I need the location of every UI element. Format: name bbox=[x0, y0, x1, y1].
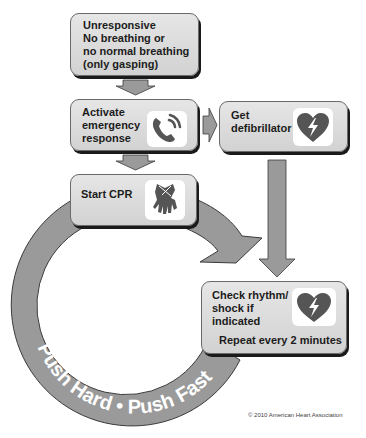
cpr-hands-icon bbox=[145, 180, 185, 220]
phone-icon bbox=[147, 111, 187, 147]
node-check-rhythm-sublabel: Repeat every 2 minutes bbox=[219, 334, 342, 346]
node-unresponsive: Unresponsive No breathing or no normal b… bbox=[70, 13, 199, 76]
node-activate-label: Activate emergency response bbox=[82, 106, 140, 145]
aed-heart-icon bbox=[292, 288, 336, 326]
node-defibrillator-label: Get defibrillator bbox=[231, 109, 292, 135]
aed-heart-icon bbox=[293, 108, 333, 146]
arrow-activate-to-cpr bbox=[116, 155, 155, 170]
node-check-rhythm: Check rhythm/ shock if indicated Repeat … bbox=[201, 281, 347, 354]
node-defibrillator: Get defibrillator bbox=[219, 101, 348, 152]
arrow-activate-to-defib bbox=[203, 108, 217, 142]
node-start-cpr-label: Start CPR bbox=[81, 188, 132, 201]
node-start-cpr: Start CPR bbox=[70, 174, 197, 226]
arrow-unresponsive-to-activate bbox=[116, 80, 155, 95]
node-check-rhythm-label: Check rhythm/ shock if indicated bbox=[212, 289, 288, 328]
arrow-defib-to-check bbox=[259, 160, 295, 277]
node-unresponsive-label: Unresponsive No breathing or no normal b… bbox=[83, 19, 189, 71]
copyright-text: © 2010 American Heart Association bbox=[248, 412, 342, 418]
node-activate: Activate emergency response bbox=[70, 99, 198, 151]
